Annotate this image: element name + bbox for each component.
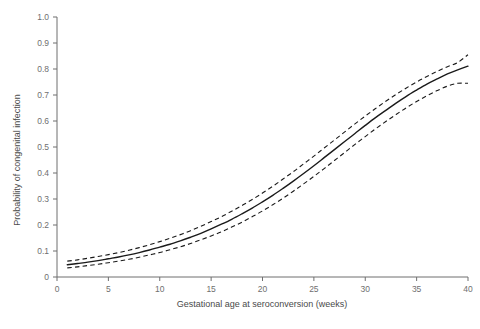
y-tick-label: 0.4 xyxy=(37,168,49,178)
x-tick-label: 35 xyxy=(412,284,422,294)
y-tick-label: 0.5 xyxy=(37,142,49,152)
y-tick-label: 0 xyxy=(44,272,49,282)
x-tick-label: 15 xyxy=(206,284,216,294)
x-axis-title: Gestational age at seroconversion (weeks… xyxy=(177,299,348,309)
y-tick-label: 0.6 xyxy=(37,116,49,126)
x-tick-label: 30 xyxy=(361,284,371,294)
x-tick-label: 20 xyxy=(258,284,268,294)
y-tick-label: 0.2 xyxy=(37,220,49,230)
chart-background xyxy=(0,0,480,329)
y-tick-label: 0.1 xyxy=(37,246,49,256)
y-tick-label: 0.7 xyxy=(37,90,49,100)
y-tick-label: 1.0 xyxy=(37,12,49,22)
y-tick-label: 0.3 xyxy=(37,194,49,204)
y-axis-title: Probability of congenital infection xyxy=(12,94,22,226)
x-tick-label: 25 xyxy=(309,284,319,294)
y-tick-label: 0.9 xyxy=(37,38,49,48)
x-tick-label: 10 xyxy=(155,284,165,294)
x-tick-label: 5 xyxy=(106,284,111,294)
congenital-infection-probability-chart: 00.10.20.30.40.50.60.70.80.91.0 05101520… xyxy=(0,0,480,329)
x-tick-label: 40 xyxy=(463,284,473,294)
x-tick-label: 0 xyxy=(55,284,60,294)
y-tick-label: 0.8 xyxy=(37,64,49,74)
